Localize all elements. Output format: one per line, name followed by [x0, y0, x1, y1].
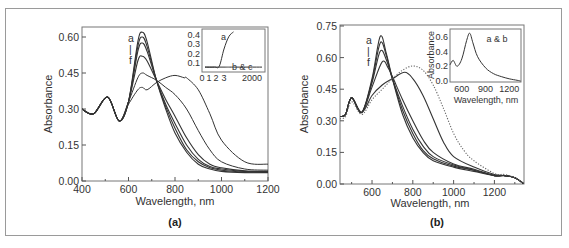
chart-b-annot-f: f	[367, 56, 370, 68]
chart-b-inset-xtick: 1200	[499, 84, 519, 94]
chart-b-xtick: 600	[363, 186, 381, 198]
chart-a-panel-label: (a)	[168, 216, 182, 228]
chart-b-inset-label: a & b	[486, 34, 507, 44]
chart-b-ytick: 0.45	[317, 83, 338, 95]
chart-b: 600800100012000.000.150.300.450.600.75 W…	[298, 20, 524, 228]
chart-b-inset-ytick: 0.0	[435, 76, 448, 86]
chart-a-series-e	[82, 73, 268, 170]
chart-b-ylabel: Absorbance	[298, 75, 310, 134]
chart-a-xlabel: Wavelength, nm	[135, 195, 214, 207]
chart-b-inset-ytick: 0.4	[435, 47, 448, 57]
chart-a-annot-f: f	[129, 54, 132, 66]
chart-a-inset-xtick: 2	[213, 73, 218, 83]
chart-a-xtick: 800	[166, 183, 184, 195]
chart-a-inset-ytick: 0.1	[187, 58, 200, 68]
chart-b-ytick: 0.75	[317, 20, 338, 32]
chart-a-inset-label-bc: b & c	[232, 62, 253, 72]
chart-b-panel-label: (b)	[430, 216, 444, 228]
chart-b-inset-xtick: 600	[454, 84, 469, 94]
chart-a-ytick: 0.45	[59, 67, 80, 79]
chart-a-inset-ytick: 0.3	[187, 39, 200, 49]
chart-b-inset-ytick: 0.2	[435, 61, 448, 71]
chart-b-series-e	[340, 72, 524, 184]
figure-canvas: 400600800100012000.000.150.300.450.60 Wa…	[0, 0, 569, 248]
chart-a-inset-xtick: 0	[199, 73, 204, 83]
chart-b-ytick: 0.60	[317, 52, 338, 64]
chart-b-inset-ytick: 0.6	[435, 32, 448, 42]
chart-a-xtick: 1000	[210, 183, 234, 195]
chart-a-inset-xtick: 1	[206, 73, 211, 83]
chart-a-series-d	[82, 56, 268, 172]
chart-a-ylabel: Absorbance	[42, 75, 54, 134]
chart-b-inset-xlabel: Wavelength, nm	[454, 95, 519, 105]
chart-b-xlabel: Wavelength, nm	[390, 197, 469, 209]
chart-a-xtick: 1200	[256, 183, 280, 195]
chart-b-ytick: 0.00	[317, 178, 338, 190]
chart-a-xtick: 600	[120, 183, 138, 195]
chart-a-inset-label-a: a	[221, 32, 226, 42]
chart-b-inset-xtick: 900	[478, 84, 493, 94]
chart-a-inset-xtick: 2000	[242, 73, 262, 83]
chart-a-inset-ytick: 0.2	[187, 49, 200, 59]
chart-a-ytick: 0.30	[59, 103, 80, 115]
chart-a-series-f	[82, 75, 268, 164]
chart-a-ytick: 0.15	[59, 139, 80, 151]
chart-a-inset: 0.10.20.30.401232000ab & c	[187, 29, 265, 83]
chart-b-series-f	[340, 66, 524, 184]
chart-b-ytick: 0.15	[317, 146, 338, 158]
chart-a-ytick: 0.00	[59, 175, 80, 187]
chart-b-xtick: 1200	[483, 186, 507, 198]
chart-b-ytick: 0.30	[317, 115, 338, 127]
chart-a-inset-xtick: 3	[221, 73, 226, 83]
chart-a-inset-ytick: 0.4	[187, 30, 200, 40]
chart-a: 400600800100012000.000.150.300.450.60 Wa…	[42, 27, 280, 228]
chart-b-inset: Absorbance Wavelength, nm a & b 0.00.20.…	[426, 29, 521, 105]
chart-a-ytick: 0.60	[59, 31, 80, 43]
